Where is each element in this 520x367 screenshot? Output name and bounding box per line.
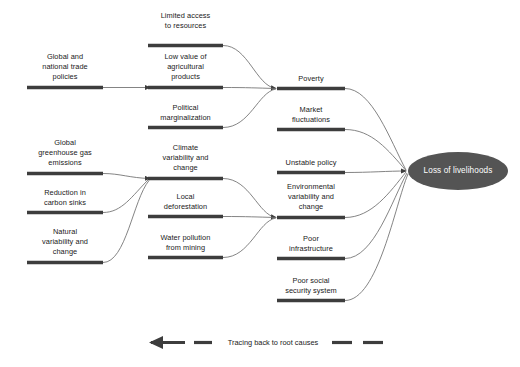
legend-text-tracing-back-to-root-causes: Tracing back to root causes	[216, 338, 330, 348]
legend-arrow-head-icon	[149, 336, 163, 349]
connector-political-marg-to-poverty	[223, 89, 276, 128]
connector-market-fluctuations-to-outcome	[345, 130, 406, 171]
connector-poor-social-security-to-outcome	[345, 174, 408, 301]
root-cause-diagram: Global and national trade policies Globa…	[0, 0, 520, 367]
connector-group-col3-to-outcome	[345, 89, 408, 301]
node-bars	[27, 46, 345, 301]
connector-limited-access-to-poverty	[223, 46, 276, 89]
outcome-label-loss-of-livelihoods: Loss of livelihoods	[408, 166, 508, 176]
connector-poverty-to-outcome	[345, 89, 406, 171]
connector-water-pollution-to-environmental	[223, 218, 276, 258]
connector-unstable-policy-to-outcome	[345, 171, 406, 173]
connector-carbon-sinks-to-climate	[103, 180, 148, 213]
connector-deforestation-to-environmental	[223, 217, 276, 218]
connector-low-value-to-poverty	[223, 88, 276, 89]
connector-poor-infrastructure-to-outcome	[345, 173, 407, 259]
connector-group-col1-to-col2	[103, 88, 150, 263]
connector-group-col2-to-col3	[223, 46, 276, 258]
diagram-canvas	[0, 0, 520, 367]
connector-ghg-to-climate	[103, 174, 150, 179]
connector-natural-variability-to-climate	[103, 181, 149, 263]
connector-climate-to-environmental	[223, 179, 276, 218]
